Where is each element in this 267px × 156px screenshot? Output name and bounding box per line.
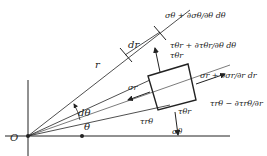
theta-label: θ: [84, 122, 90, 132]
dtheta-label: dθ: [78, 108, 90, 118]
sigma-r-plus-label: σr + ∂σr/∂r dr: [200, 72, 257, 80]
dr-label: dr: [128, 40, 139, 50]
sigma-theta-plus-label: σθ + ∂σθ/∂θ dθ: [165, 12, 226, 20]
origin-label: O: [10, 133, 18, 143]
tau-r-theta-label: τrθ: [140, 118, 153, 126]
tau-r-theta-minus-label: τrθ − ∂τrθ/∂r: [210, 100, 263, 108]
sigma-r-label: σr: [128, 84, 137, 92]
radius-label: r: [95, 60, 100, 70]
sigma-theta-label: σθ: [172, 128, 182, 136]
tau-theta-r-label: τθr: [178, 108, 191, 116]
tau-theta-r-plus-label: τθr + ∂τθr/∂θ dθ: [170, 42, 236, 50]
tau-theta-r-top-label: τθr: [170, 52, 183, 60]
